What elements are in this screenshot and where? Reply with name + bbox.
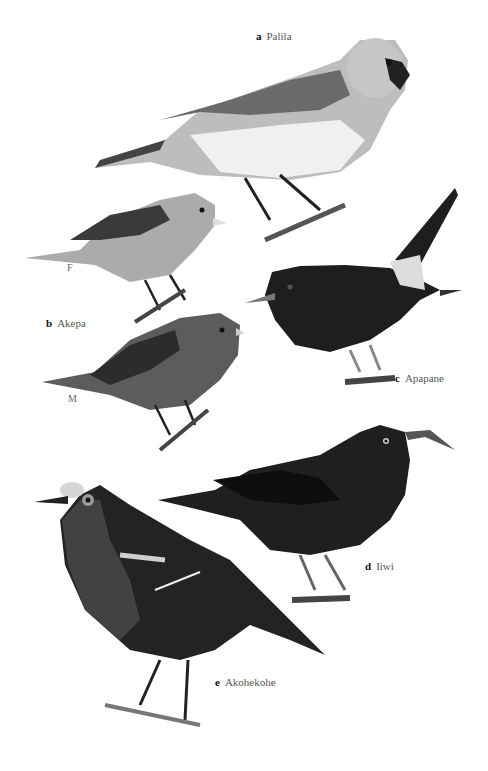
label-akepa-male: M [68, 393, 77, 404]
name-palila: Palila [267, 30, 292, 42]
name-iiwi: Iiwi [376, 560, 394, 572]
bird-illustrations [0, 0, 488, 771]
letter-d: d [365, 560, 371, 572]
akepa-female-illustration [25, 193, 227, 322]
label-akepa-female: F [67, 262, 73, 273]
name-akohekohe: Akohekohe [225, 676, 276, 688]
label-apapane: cApapane [395, 372, 444, 384]
letter-c: c [395, 372, 400, 384]
name-apapane: Apapane [405, 372, 444, 384]
apapane-illustration [245, 188, 462, 382]
letter-e: e [215, 676, 220, 688]
label-akepa: bAkepa [46, 317, 86, 329]
label-palila: aPalila [256, 30, 292, 42]
bird-plate: aPalila F bAkepa M cApapane dIiwi eAkohe… [0, 0, 488, 771]
akepa-male-illustration [42, 313, 244, 450]
label-iiwi: dIiwi [365, 560, 394, 572]
label-akohekohe: eAkohekohe [215, 676, 276, 688]
letter-b: b [46, 317, 52, 329]
letter-a: a [256, 30, 262, 42]
name-akepa: Akepa [57, 317, 86, 329]
